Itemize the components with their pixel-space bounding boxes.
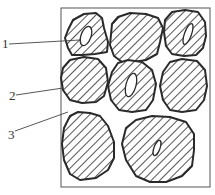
grains — [61, 10, 207, 182]
grain-mid-right — [160, 59, 207, 112]
leader-line-3 — [15, 112, 68, 131]
microstructure-diagram: 1 2 3 — [0, 0, 215, 195]
grain-mid-left — [61, 57, 108, 103]
grain-top-center — [110, 13, 163, 62]
label-3: 3 — [8, 127, 15, 142]
grain-bottom-left — [62, 112, 114, 180]
leader-line-2 — [16, 88, 63, 95]
label-2: 2 — [9, 88, 16, 103]
label-1: 1 — [2, 36, 9, 51]
